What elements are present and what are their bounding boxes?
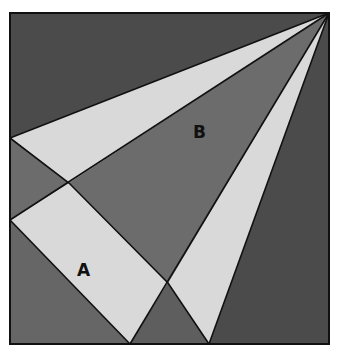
label-b: B (193, 122, 206, 142)
label-a: A (77, 260, 91, 280)
geometry-figure: B A (0, 0, 339, 356)
